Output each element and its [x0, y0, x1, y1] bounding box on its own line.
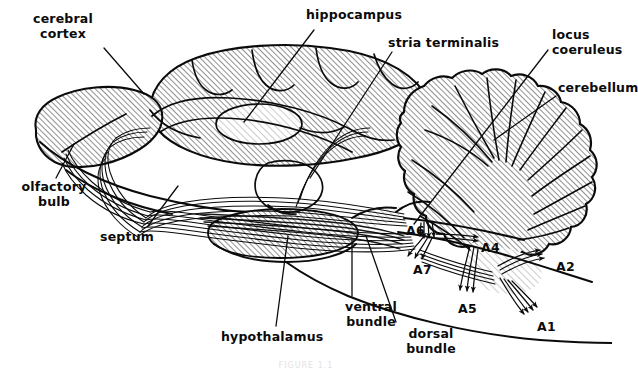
label-locus-coeruleus: locus coeruleus	[552, 28, 622, 57]
label-cerebellum: cerebellum	[558, 81, 628, 96]
hippocampus-region	[216, 104, 302, 144]
label-hippocampus: hippocampus	[306, 8, 426, 23]
nucleus-label-a7: A7	[413, 263, 432, 278]
figure-caption: FIGURE 1.1	[0, 361, 612, 371]
label-olfactory-bulb: olfactory bulb	[10, 180, 98, 209]
nucleus-label-a2: A2	[556, 260, 575, 275]
label-hypothalamus: hypothalamus	[221, 330, 341, 345]
nucleus-label-a5: A5	[458, 302, 477, 317]
label-dorsal-bundle: dorsal bundle	[396, 327, 466, 356]
label-stria-terminalis: stria terminalis	[388, 36, 518, 51]
label-septum: septum	[100, 230, 170, 245]
nucleus-label-a4: A4	[481, 241, 500, 256]
nucleus-label-a1: A1	[537, 320, 556, 335]
label-ventral-bundle: ventral bundle	[336, 300, 406, 329]
nucleus-label-a6: A6	[406, 224, 425, 239]
label-cerebral-cortex: cerebral cortex	[18, 12, 108, 41]
